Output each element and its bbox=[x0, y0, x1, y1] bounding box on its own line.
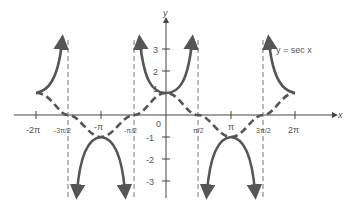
curve-label: y = sec x bbox=[276, 45, 312, 55]
secant-graph: -2π -3π/2 -π -π/2 π/2 π 3π/2 2π 3 2 1 -1… bbox=[0, 0, 349, 206]
tick-label-pi-2: π/2 bbox=[193, 127, 204, 134]
tick-label-neg-2pi: -2π bbox=[26, 125, 40, 135]
x-axis-label: x bbox=[337, 110, 343, 120]
y-axis-label: y bbox=[162, 8, 168, 18]
tick-label-y-1: 1 bbox=[153, 84, 158, 94]
tick-label-pi: π bbox=[228, 122, 234, 132]
sec-branch-left-up bbox=[36, 42, 62, 93]
tick-label-y-neg-3: -3 bbox=[146, 177, 154, 187]
sec-branch-neg-pi-right bbox=[101, 137, 125, 192]
tick-label-neg-pi: -π bbox=[94, 122, 103, 132]
tick-label-neg-pi-2: -π/2 bbox=[124, 127, 137, 134]
sec-branch-neg-pi-left bbox=[77, 137, 101, 192]
tick-label-neg-3pi-2: -3π/2 bbox=[54, 127, 71, 134]
tick-label-y-neg-2: -2 bbox=[146, 155, 154, 165]
sec-branch-center-right bbox=[166, 42, 192, 93]
tick-label-y-neg-1: -1 bbox=[146, 133, 154, 143]
tick-label-2pi: 2π bbox=[288, 125, 299, 135]
origin-label: 0 bbox=[156, 119, 161, 129]
tick-label-y-2: 2 bbox=[153, 67, 158, 77]
x-tick-labels: -2π -3π/2 -π -π/2 π/2 π 3π/2 2π bbox=[26, 122, 299, 135]
sec-branch-pi-right bbox=[231, 137, 255, 192]
tick-label-y-3: 3 bbox=[153, 45, 158, 55]
tick-label-3pi-2: 3π/2 bbox=[256, 127, 271, 134]
sec-branch-pi-left bbox=[207, 137, 231, 192]
y-tick-labels: 3 2 1 -1 -2 -3 bbox=[146, 45, 158, 187]
